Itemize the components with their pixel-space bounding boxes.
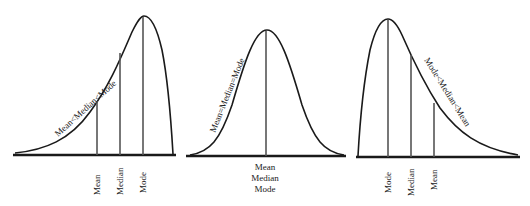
skewed-left-curve: [15, 16, 173, 154]
normal-curve: [190, 30, 344, 155]
skewed-right-curve: [358, 19, 518, 156]
curve-label: Mean=Median=Mode: [208, 57, 247, 134]
panel-negative-skew: Mean<Median<Mode Mean Median Mode: [13, 16, 176, 195]
skewness-diagram: Mean<Median<Mode Mean Median Mode Mean=M…: [0, 0, 530, 206]
median-label: Median: [406, 168, 416, 196]
curve-label: Mean<Median<Mode: [53, 78, 119, 138]
mode-label: Mode: [383, 172, 393, 193]
panel-positive-skew: Mode<Median<Mean Mode Median Mean: [356, 19, 520, 196]
median-label: Median: [251, 173, 279, 183]
mean-label: Mean: [92, 174, 102, 195]
mean-label: Mean: [429, 169, 439, 190]
mean-label: Mean: [255, 162, 276, 172]
mode-label: Mode: [138, 172, 148, 193]
panel-symmetric: Mean=Median=Mode Mean Median Mode: [186, 30, 346, 194]
median-label: Median: [115, 167, 125, 195]
mode-label: Mode: [255, 184, 276, 194]
